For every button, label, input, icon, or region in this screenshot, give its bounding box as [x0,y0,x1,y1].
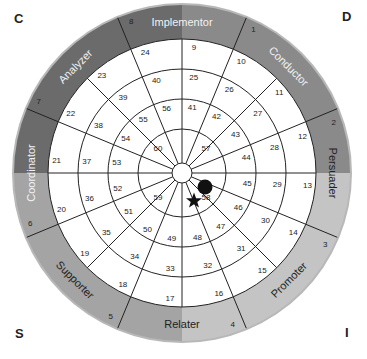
segment-number: 9 [192,43,197,52]
segment-number: 27 [253,109,262,118]
segment-number: 35 [102,228,111,237]
segment-number: 52 [113,184,122,193]
segment-number: 59 [154,193,163,202]
style-label-coordinator: Coordinator [25,144,37,202]
segment-number: 45 [243,179,252,188]
segment-number: 29 [273,180,282,189]
segment-number: 15 [258,266,267,275]
segment-number: 14 [289,228,298,237]
segment-number: 51 [124,207,133,216]
segment-number: 46 [234,203,243,212]
segment-number: 36 [85,194,94,203]
segment-number: 26 [225,85,234,94]
segment-number: 50 [143,225,152,234]
segment-number: 54 [121,134,130,143]
segment-number: 37 [82,157,91,166]
band-number: 7 [37,97,42,106]
segment-number: 41 [188,103,197,112]
style-label-relater: Relater [164,318,200,330]
segment-number: 28 [270,143,279,152]
segment-number: 49 [167,234,176,243]
segment-number: 21 [52,156,61,165]
segment-number: 32 [203,261,212,270]
segment-number: 20 [57,205,66,214]
segment-number: 44 [242,153,251,162]
segment-number: 57 [202,144,211,153]
segment-number: 38 [94,121,103,130]
style-label-persuader: Persuader [327,148,339,199]
band-number: 1 [251,25,256,34]
segment-number: 60 [154,144,163,153]
segment-number: 48 [193,233,202,242]
band-number: 3 [323,240,328,249]
band-number: 6 [28,219,33,228]
segment-number: 11 [275,88,284,97]
segment-number: 23 [97,71,106,80]
position-dot-marker [198,180,213,195]
segment-number: 22 [66,109,75,118]
segment-number: 34 [130,252,139,261]
segment-number: 43 [231,130,240,139]
disc-style-wheel: ImplementorConductorPersuaderPromoterRel… [0,0,367,359]
style-label-implementor: Implementor [151,16,212,28]
band-number: 8 [129,17,134,26]
center-circle [172,163,192,183]
segment-number: 13 [303,181,312,190]
segment-number: 40 [152,76,161,85]
segment-number: 19 [80,249,89,258]
band-number: 4 [231,320,236,329]
segment-number: 24 [141,48,150,57]
segment-number: 12 [298,132,307,141]
segment-number: 39 [118,93,127,102]
segment-number: 53 [112,158,121,167]
segment-number: 56 [162,104,171,113]
segment-number: 55 [139,115,148,124]
segment-number: 42 [212,112,221,121]
segment-number: 30 [261,216,270,225]
segment-number: 33 [166,264,175,273]
segment-number: 31 [237,244,246,253]
segment-number: 18 [118,280,127,289]
band-number: 2 [332,118,337,127]
segment-number: 17 [165,294,174,303]
segment-number: 16 [214,289,223,298]
band-number: 5 [108,312,113,321]
segment-number: 10 [237,57,246,66]
segment-number: 47 [216,222,225,231]
segment-number: 25 [189,73,198,82]
